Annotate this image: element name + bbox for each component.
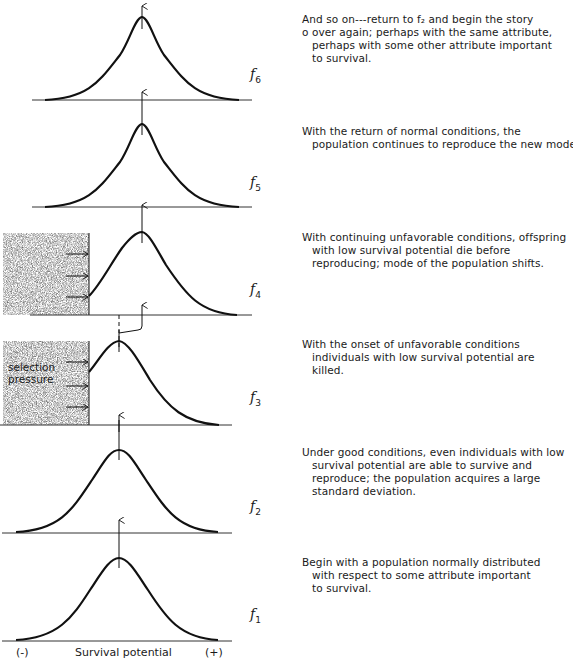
caption-f1: Begin with a population normally distrib… (302, 556, 570, 595)
label-f5: f5 (250, 174, 261, 193)
selection-pressure-label: selection pressure (8, 361, 55, 385)
caption-f3: With the onset of unfavorable conditions… (302, 338, 570, 377)
caption-f6: And so on---return to f₂ and begin the s… (302, 13, 570, 65)
axis-minus-label: (-) (16, 646, 29, 659)
label-f1: f1 (250, 606, 261, 625)
curve-f1 (2, 520, 232, 641)
label-f4: f4 (250, 281, 261, 300)
curve-f4 (3, 205, 252, 347)
label-f3: f3 (250, 389, 261, 408)
axis-title: Survival potential (75, 646, 172, 659)
curve-f2 (2, 420, 232, 533)
curve-f6 (32, 6, 252, 100)
label-f6: f6 (250, 66, 261, 85)
axis-plus-label: (+) (205, 646, 223, 659)
caption-f5: With the return of normal conditions, th… (302, 125, 570, 151)
label-f2: f2 (250, 498, 261, 517)
caption-f2: Under good conditions, even individuals … (302, 446, 570, 498)
curve-f5 (32, 92, 252, 207)
caption-f4: With continuing unfavorable conditions, … (302, 231, 570, 270)
